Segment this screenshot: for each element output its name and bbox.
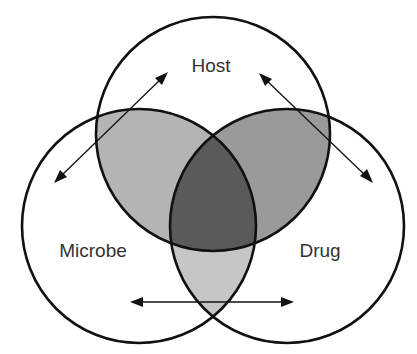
venn-diagram: Host Microbe Drug	[0, 0, 417, 354]
host-label: Host	[191, 55, 231, 76]
microbe-label: Microbe	[59, 240, 127, 261]
drug-label: Drug	[299, 240, 340, 261]
arrowhead-icon	[130, 297, 143, 307]
arrowhead-icon	[360, 169, 373, 183]
arrowhead-icon	[281, 297, 294, 307]
